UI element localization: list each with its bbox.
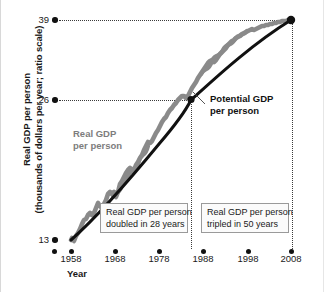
x-tick-label-2008: 2008: [271, 253, 311, 264]
x-tick-label-1978: 1978: [139, 253, 179, 264]
annotation-tripled-line2: tripled in 50 years: [207, 219, 284, 231]
plot-area: [1, 0, 324, 292]
endpoint-marker-2008: [287, 16, 295, 24]
endpoint-marker-1986: [187, 96, 194, 103]
x-tick-label-1998: 1998: [228, 253, 268, 264]
annotation-doubled-line1: Real GDP per person: [106, 207, 183, 219]
x-tick-label-1988: 1988: [183, 253, 223, 264]
annotation-doubled: Real GDP per person doubled in 28 years: [100, 203, 188, 233]
series-label-real-gdp-line1: Real GDP: [73, 128, 122, 140]
series-label-real-gdp: Real GDP per person: [73, 128, 122, 151]
series-real-gdp-wiggle-2: [201, 31, 247, 74]
annotation-tripled: Real GDP per person tripled in 50 years: [201, 203, 289, 233]
x-tick-label-1958: 1958: [51, 253, 91, 264]
series-label-potential-gdp-line2: per person: [210, 105, 273, 117]
x-tick-label-1968: 1968: [95, 253, 135, 264]
series-label-potential-gdp-line1: Potential GDP: [210, 93, 273, 105]
series-label-potential-gdp: Potential GDP per person: [210, 93, 273, 116]
annotation-doubled-line2: doubled in 28 years: [106, 219, 183, 231]
annotation-tripled-line1: Real GDP per person: [207, 207, 284, 219]
gdp-per-person-chart: Real GDP per person (thousands of dollar…: [0, 0, 324, 292]
x-axis-title: Year: [47, 268, 107, 279]
series-label-real-gdp-line2: per person: [73, 140, 122, 152]
